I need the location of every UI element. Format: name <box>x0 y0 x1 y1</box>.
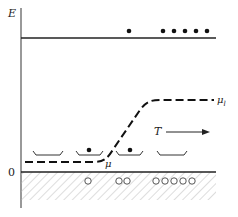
energy-axis-label: E <box>8 8 16 19</box>
mu-l-subscript: l <box>224 100 226 108</box>
zero-label: 0 <box>8 167 15 178</box>
arrow-head-icon <box>202 129 210 135</box>
upper-electrons <box>127 29 210 34</box>
mu-l-label: μl <box>217 95 226 108</box>
temperature-label: T <box>154 126 161 137</box>
mu-label: μ <box>105 159 112 169</box>
energy-level-diagram <box>0 0 238 217</box>
trapped-electrons <box>87 148 133 153</box>
valence-band-hatch <box>21 172 216 200</box>
